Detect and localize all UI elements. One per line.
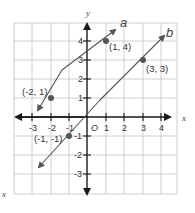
y-tick-label: -1 xyxy=(74,131,82,141)
x-tick-label: 2 xyxy=(122,123,127,133)
y-tick-label: -3 xyxy=(74,169,82,179)
x-tick-label: 1 xyxy=(104,123,109,133)
stray-x-label: x xyxy=(1,189,6,199)
y-tick-label: 4 xyxy=(78,36,83,46)
y-tick-label: -2 xyxy=(74,150,82,160)
point-label: (3, 3) xyxy=(146,63,168,74)
line-a-label: a xyxy=(120,15,127,30)
y-tick-label: 1 xyxy=(78,93,83,103)
y-axis-label: y xyxy=(85,8,90,18)
x-tick-label: 3 xyxy=(141,123,146,133)
y-tick-label: 2 xyxy=(78,74,83,84)
line-a xyxy=(62,30,115,70)
origin-label: O xyxy=(91,123,98,133)
x-tick-label: -3 xyxy=(29,123,37,133)
coordinate-plane: -3 -2 -1 1 2 3 4 4 3 2 1 -1 -2 -3 y x O … xyxy=(0,0,195,213)
point-label: (-2, 1) xyxy=(22,86,47,97)
x-axis-label: x xyxy=(181,113,186,123)
line-b-label: b xyxy=(166,25,173,40)
point-a1 xyxy=(48,95,54,101)
point-b1 xyxy=(66,133,72,139)
x-tick-label: -1 xyxy=(66,123,74,133)
point-label: (1, 4) xyxy=(109,41,131,52)
point-label: (-1, -1) xyxy=(34,133,63,144)
x-tick-label: -2 xyxy=(48,123,56,133)
x-tick-label: 4 xyxy=(159,123,164,133)
